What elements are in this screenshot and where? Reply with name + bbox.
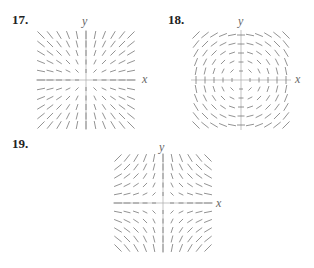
problem-18-number: 18.: [168, 12, 184, 28]
problem-18-x-label: x: [295, 72, 300, 87]
problem-18-y-label: y: [238, 14, 243, 29]
vector-field-17: [36, 30, 136, 130]
problem-17-x-label: x: [142, 72, 147, 87]
vector-field-19: [113, 153, 213, 253]
problem-19-x-label: x: [216, 196, 221, 211]
vector-field-18: [191, 30, 291, 130]
problem-19-number: 19.: [12, 136, 28, 152]
problem-17-number: 17.: [12, 12, 28, 28]
problem-17-y-label: y: [82, 14, 87, 29]
